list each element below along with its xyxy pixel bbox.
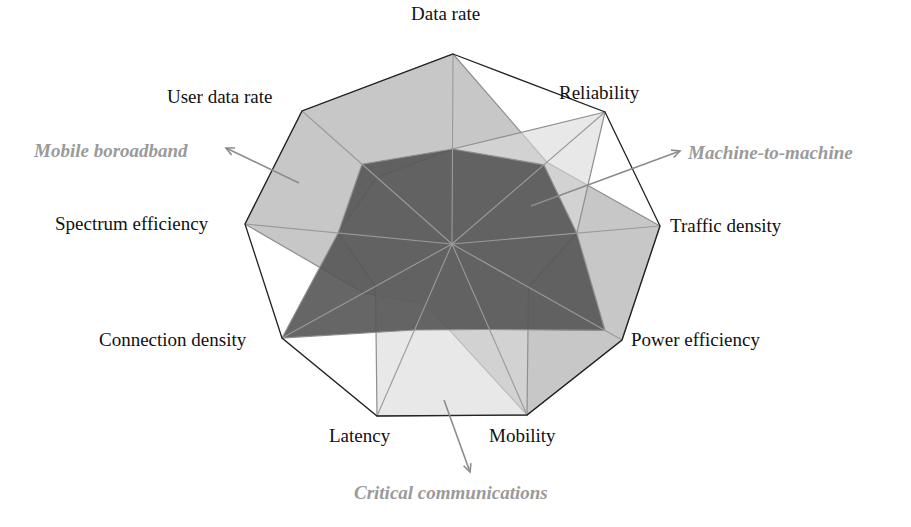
label-machine-to-machine: Machine-to-machine [688, 143, 853, 162]
axis-label-traffic-density: Traffic density [670, 216, 781, 235]
axis-label-latency: Latency [329, 426, 390, 445]
axis-label-spectrum-efficiency: Spectrum efficiency [55, 214, 208, 233]
axis-label-power-efficiency: Power efficiency [631, 330, 760, 349]
label-mobile-broadband: Mobile boroadband [34, 141, 188, 160]
axis-label-data-rate: Data rate [411, 4, 480, 23]
axis-label-connection-density: Connection density [99, 330, 246, 349]
axis-label-reliability: Reliability [559, 83, 639, 102]
axis-label-mobility: Mobility [489, 426, 556, 445]
radar-chart [0, 0, 911, 527]
label-critical-communications: Critical communications [354, 483, 548, 502]
axis-label-user-data-rate: User data rate [167, 87, 273, 106]
